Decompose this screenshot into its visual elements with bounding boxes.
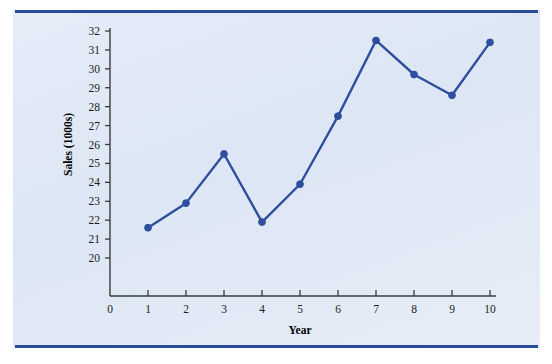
- data-point: [221, 151, 228, 158]
- series-line-sales: [148, 40, 490, 227]
- x-tick-label: 9: [449, 303, 455, 315]
- data-point: [373, 37, 380, 44]
- y-tick-label: 24: [89, 176, 101, 188]
- y-tick-label: 25: [89, 157, 101, 169]
- data-point: [145, 224, 152, 231]
- data-point: [487, 39, 494, 46]
- line-chart: 20212223242526272829303132 012345678910 …: [0, 0, 552, 364]
- x-tick-label: 1: [145, 303, 151, 315]
- y-tick-label: 28: [89, 101, 101, 113]
- y-tick-label: 21: [89, 233, 101, 245]
- x-tick-label: 0: [107, 303, 113, 315]
- data-point: [449, 92, 456, 99]
- x-tick-label: 2: [183, 303, 189, 315]
- y-tick-label: 32: [89, 25, 101, 37]
- y-axis-title: Sales (1000s): [62, 113, 75, 176]
- x-tick-label: 4: [259, 303, 265, 315]
- y-tick-label: 26: [89, 139, 101, 151]
- x-tick-label: 5: [297, 303, 303, 315]
- data-point: [335, 113, 342, 120]
- y-tick-label: 29: [89, 82, 101, 94]
- y-tick-label: 20: [89, 252, 101, 264]
- x-tick-label: 8: [411, 303, 417, 315]
- y-axis-ticks: 20212223242526272829303132: [89, 25, 111, 264]
- x-axis-title: Year: [289, 324, 312, 336]
- data-point: [183, 200, 190, 207]
- y-tick-label: 22: [89, 214, 101, 226]
- data-point: [411, 71, 418, 78]
- y-tick-label: 30: [89, 63, 101, 75]
- chart-figure: 20212223242526272829303132 012345678910 …: [0, 0, 552, 364]
- y-tick-label: 31: [89, 44, 101, 56]
- x-axis-ticks: 012345678910: [107, 290, 496, 315]
- x-tick-label: 6: [335, 303, 341, 315]
- x-tick-label: 3: [221, 303, 227, 315]
- x-tick-label: 10: [484, 303, 496, 315]
- data-point: [297, 181, 304, 188]
- y-tick-label: 27: [89, 120, 101, 132]
- data-point: [259, 219, 266, 226]
- series-points-sales: [145, 37, 494, 231]
- y-tick-label: 23: [89, 195, 101, 207]
- x-tick-label: 7: [373, 303, 379, 315]
